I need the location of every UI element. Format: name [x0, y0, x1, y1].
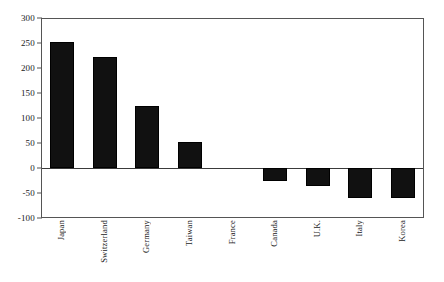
y-tick-label: -50	[22, 189, 35, 198]
bar	[391, 168, 415, 198]
bars-layer	[41, 18, 424, 218]
bar	[306, 168, 330, 186]
x-axis-label: Switzerland	[100, 220, 109, 263]
y-tick-label: 300	[21, 14, 35, 23]
y-tick-label: 150	[21, 89, 35, 98]
y-tick-label: 100	[21, 114, 35, 123]
bar-chart: 300250200150100500-50-100 JapanSwitzerla…	[0, 0, 444, 282]
y-tick-label: 200	[21, 64, 35, 73]
y-tick-label: 0	[30, 164, 35, 173]
y-tick-label: -100	[18, 214, 35, 223]
x-axis-label: Germany	[142, 220, 151, 253]
y-tick-label: 250	[21, 39, 35, 48]
x-axis-label: France	[228, 220, 237, 244]
y-axis-tick-labels: 300250200150100500-50-100	[0, 18, 35, 218]
bar	[50, 42, 74, 169]
x-axis-label: U.K.	[313, 220, 322, 237]
bar	[178, 142, 202, 168]
x-axis-label: Korea	[398, 220, 407, 242]
bar	[93, 57, 117, 168]
bar	[263, 168, 287, 181]
y-tick-label: 50	[26, 139, 35, 148]
bar	[135, 106, 159, 168]
x-axis-label: Italy	[355, 220, 364, 237]
bar	[348, 168, 372, 198]
x-axis-label: Taiwan	[185, 220, 194, 246]
x-axis-label: Japan	[57, 220, 66, 240]
x-axis-category-labels: JapanSwitzerlandGermanyTaiwanFranceCanad…	[41, 220, 424, 282]
x-axis-label: Canada	[270, 220, 279, 247]
